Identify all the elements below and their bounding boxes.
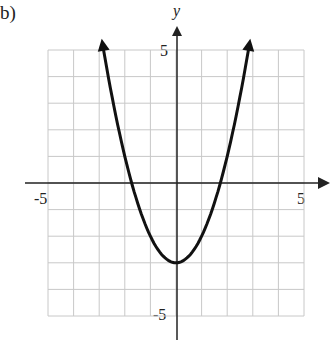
curve-arrow-right-icon [242,39,254,52]
x-axis-arrow-icon [318,177,330,189]
y-axis-arrow-icon [172,26,182,36]
parabola-graph [0,0,336,340]
curve-arrow-left-icon [98,39,110,52]
